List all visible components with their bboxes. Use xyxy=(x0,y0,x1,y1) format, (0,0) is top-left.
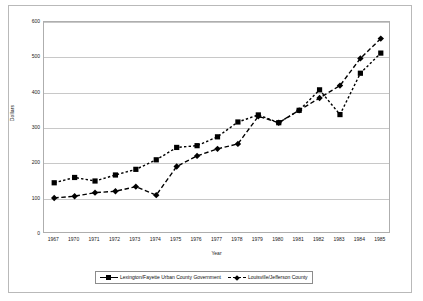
y-tick-label: 500 xyxy=(10,53,40,59)
data-point-square xyxy=(92,178,97,183)
data-point-square xyxy=(215,134,220,139)
data-point-square xyxy=(337,112,342,117)
x-axis-title: Year xyxy=(43,250,390,256)
x-tick-label: 1985 xyxy=(368,236,392,243)
y-tick-label: 300 xyxy=(10,124,40,130)
data-point-diamond xyxy=(112,188,118,194)
legend-label: Lexington/Fayette Urban County Governmen… xyxy=(120,274,221,281)
legend-label: Louisville/Jefferson County xyxy=(248,274,308,281)
chart-legend: Lexington/Fayette Urban County Governmen… xyxy=(95,271,313,284)
legend-entry-2[interactable]: Louisville/Jefferson County xyxy=(228,274,308,281)
data-point-square xyxy=(317,87,322,92)
y-tick-label: 600 xyxy=(10,18,40,24)
data-point-diamond xyxy=(214,146,220,152)
data-point-square xyxy=(52,180,57,185)
data-point-diamond xyxy=(194,153,200,159)
data-point-diamond xyxy=(133,183,139,189)
series-2 xyxy=(51,35,384,201)
data-point-square xyxy=(113,172,118,177)
square-icon xyxy=(100,274,118,281)
data-point-square xyxy=(358,71,363,76)
data-point-diamond xyxy=(51,195,57,201)
data-point-square xyxy=(235,119,240,124)
series-line xyxy=(54,53,381,183)
series-1 xyxy=(52,50,384,185)
x-axis-tick-labels: 1967197019711972197319741975197619771978… xyxy=(43,236,390,246)
data-point-square xyxy=(378,50,383,55)
data-point-square xyxy=(133,167,138,172)
data-point-diamond xyxy=(92,189,98,195)
data-point-square xyxy=(174,145,179,150)
data-point-square xyxy=(72,175,77,180)
plot-area xyxy=(43,21,390,233)
chart-figure: Dollars 0100200300400500600 196719701971… xyxy=(0,0,423,301)
y-tick-label: 0 xyxy=(10,230,40,236)
data-point-diamond xyxy=(316,95,322,101)
data-point-diamond xyxy=(71,193,77,199)
diamond-icon xyxy=(228,274,246,281)
legend-entry-1[interactable]: Lexington/Fayette Urban County Governmen… xyxy=(100,274,221,281)
y-axis-tick-labels: 0100200300400500600 xyxy=(8,21,40,233)
y-tick-label: 400 xyxy=(10,89,40,95)
data-point-square xyxy=(194,143,199,148)
y-tick-label: 200 xyxy=(10,159,40,165)
series-layer xyxy=(44,22,391,234)
y-tick-label: 100 xyxy=(10,195,40,201)
series-line xyxy=(54,39,381,198)
data-point-square xyxy=(154,157,159,162)
